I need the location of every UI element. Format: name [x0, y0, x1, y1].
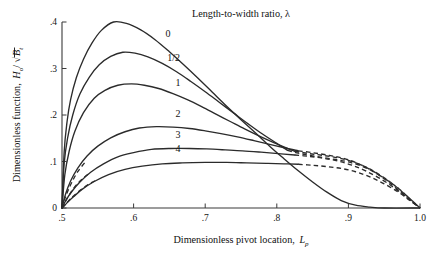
x-tick-label: 1.0 — [414, 213, 426, 223]
axes-group — [62, 22, 420, 208]
curve-dashed-1 — [295, 151, 420, 208]
curve-dashed-2 — [298, 151, 420, 208]
curve-label-2: 2 — [175, 108, 180, 119]
x-ticklabel-group: .5.6.7.8.91.0 — [58, 213, 426, 223]
y-axis-title: Dimensionless function, Ho/ √Bt — [11, 47, 25, 183]
curve-label-group: 01/21234 — [165, 28, 180, 154]
chart-canvas: Length-to-width ratio, λ .5.6.7.8.91.0 0… — [0, 0, 436, 255]
x-axis-title: Dimensionless pivot location, Lp — [173, 234, 309, 248]
curve-label-3: 3 — [175, 129, 180, 140]
y-tick-label: .1 — [50, 157, 57, 167]
x-tick-label: .5 — [58, 213, 65, 223]
x-tick-label: .7 — [202, 213, 209, 223]
curve-dashed-4 — [298, 164, 420, 208]
curve-label-0: 0 — [165, 28, 170, 39]
chart-title: Length-to-width ratio, λ — [192, 8, 290, 19]
figure-container: Length-to-width ratio, λ .5.6.7.8.91.0 0… — [0, 0, 436, 255]
y-tick-label: .3 — [50, 64, 57, 74]
curve-group — [62, 22, 420, 209]
y-tick-label: 0 — [52, 203, 57, 213]
x-tick-label: .9 — [345, 213, 352, 223]
y-tick-label: .2 — [50, 110, 57, 120]
curve-label-4: 4 — [175, 143, 180, 154]
y-ticklabel-group: 0.1.2.3.4 — [50, 17, 57, 213]
y-tick-label: .4 — [50, 17, 57, 27]
curve-solid-4 — [62, 162, 298, 208]
curve-solid-0 — [62, 22, 420, 209]
leading-dash-group — [62, 162, 96, 208]
curve-dashed-1-2 — [288, 150, 420, 208]
curve-solid-3 — [62, 148, 295, 208]
leading-dash-4 — [62, 180, 96, 208]
curve-label-1: 1 — [175, 77, 180, 88]
x-tick-label: .6 — [130, 213, 137, 223]
curve-label-1-2: 1/2 — [167, 52, 180, 63]
x-tick-label: .8 — [273, 213, 280, 223]
